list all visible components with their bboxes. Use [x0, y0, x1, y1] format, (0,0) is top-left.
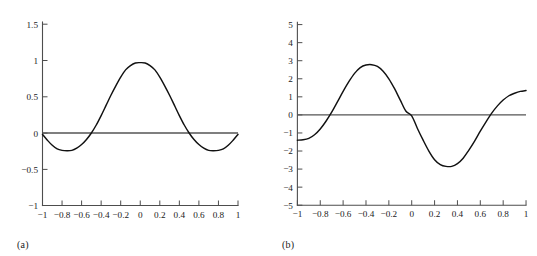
panel-b-x-ticks	[297, 200, 526, 205]
panel-b-caption: (b)	[282, 240, 294, 250]
panel-a-y-tick-label: −0.5	[21, 165, 38, 175]
panel-a-y-tick-labels: 1.5 1 0.5 0 −0.5 −1	[21, 20, 38, 211]
panel-a-x-tick-label: 1	[236, 210, 241, 220]
panel-b-x-tick-label: −0.6	[335, 209, 352, 219]
panel-b-y-tick-label: −3	[283, 164, 293, 174]
panel-a-x-tick-label: −0.6	[73, 210, 90, 220]
panel-a-x-tick-label: 0.6	[193, 210, 205, 220]
panel-a-x-tick-label: −0.8	[54, 210, 71, 220]
panel-b-y-tick-labels: 5 4 3 2 1 0 −1 −2 −3 −4 −5	[283, 20, 293, 211]
panel-b-y-tick-label: −4	[283, 183, 293, 193]
panel-a-axes	[43, 22, 239, 206]
panel-b-y-tick-label: 1	[288, 92, 293, 102]
figure-two-panel-plots: 1.5 1 0.5 0 −0.5 −1 −1 −0.8 −0.6 −0.4 −0…	[0, 0, 537, 256]
panel-a-y-ticks	[43, 24, 48, 205]
panel-a-curve	[43, 63, 239, 151]
panel-b-x-tick-label: 0.8	[497, 209, 509, 219]
panel-b-x-tick-label: 0.4	[452, 209, 464, 219]
panel-b-y-tick-label: −1	[283, 128, 293, 138]
panel-a-y-tick-label: 0.5	[27, 92, 39, 102]
panel-b-x-tick-label: 0.2	[429, 209, 441, 219]
panel-b-y-tick-label: 2	[288, 74, 293, 84]
panel-b-y-tick-label: 4	[288, 38, 293, 48]
panel-a-x-ticks	[43, 201, 239, 206]
panel-b-x-tick-label: −0.8	[312, 209, 329, 219]
panel-a-caption: (a)	[17, 240, 29, 250]
panel-a-x-tick-label: 0.4	[174, 210, 186, 220]
panel-a-x-tick-label: −0.2	[112, 210, 129, 220]
panel-a-x-tick-label: 0.2	[154, 210, 166, 220]
panel-a-x-tick-label: −1	[38, 210, 48, 220]
panel-b-curve	[297, 65, 526, 167]
panel-b-y-tick-label: 5	[288, 20, 293, 30]
panel-b-y-tick-label: −2	[283, 146, 293, 156]
panel-b: 5 4 3 2 1 0 −1 −2 −3 −4 −5 −1 −0.8 −0.6 …	[268, 0, 536, 256]
panel-b-x-tick-label: −0.4	[358, 209, 375, 219]
panel-b-chart: 5 4 3 2 1 0 −1 −2 −3 −4 −5 −1 −0.8 −0.6 …	[268, 0, 536, 256]
panel-b-x-tick-label: −0.2	[381, 209, 398, 219]
panel-b-x-tick-label: 1	[524, 209, 529, 219]
panel-b-y-tick-label: 0	[288, 110, 293, 120]
panel-b-y-tick-label: 3	[288, 56, 293, 66]
panel-b-x-tick-label: 0	[409, 209, 414, 219]
panel-a-y-tick-label: 1	[33, 56, 38, 66]
panel-a-chart: 1.5 1 0.5 0 −0.5 −1 −1 −0.8 −0.6 −0.4 −0…	[0, 0, 268, 256]
panel-a-y-tick-label: 0	[33, 129, 38, 139]
panel-a-x-tick-label: 0	[138, 210, 143, 220]
panel-a: 1.5 1 0.5 0 −0.5 −1 −1 −0.8 −0.6 −0.4 −0…	[0, 0, 268, 256]
panel-b-x-tick-label: −1	[293, 209, 303, 219]
panel-b-x-tick-label: 0.6	[475, 209, 487, 219]
panel-b-x-tick-labels: −1 −0.8 −0.6 −0.4 −0.2 0 0.2 0.4 0.6 0.8…	[293, 209, 529, 219]
panel-a-y-tick-label: 1.5	[27, 20, 39, 30]
panel-a-x-tick-label: 0.8	[213, 210, 225, 220]
panel-a-x-tick-label: −0.4	[93, 210, 110, 220]
panel-a-x-tick-labels: −1 −0.8 −0.6 −0.4 −0.2 0 0.2 0.4 0.6 0.8…	[38, 210, 241, 220]
